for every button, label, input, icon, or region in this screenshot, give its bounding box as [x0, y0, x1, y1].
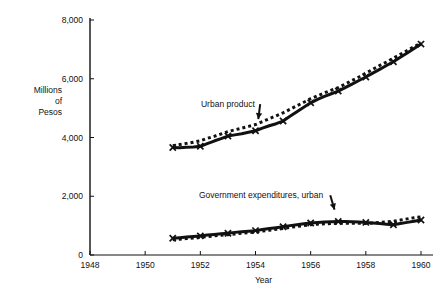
x-axis-tick-label: 1954	[246, 260, 265, 270]
series-solid-line	[173, 44, 421, 148]
y-axis-tick-label: 0	[78, 250, 83, 260]
series-3	[173, 217, 421, 240]
annotation-label: Urban product	[201, 99, 256, 109]
annotation-arrow	[330, 195, 336, 209]
x-axis-title: Year	[255, 275, 272, 285]
series-1	[173, 43, 421, 146]
y-axis-title-line: Millions	[34, 85, 62, 95]
y-axis-title-line: Pesos	[38, 107, 62, 117]
series-dotted-line	[173, 217, 421, 240]
series-0	[170, 41, 424, 151]
series-dotted-line	[173, 43, 421, 146]
x-axis-tick-label: 1948	[81, 260, 100, 270]
chart-container: 02,0004,0006,0008,0001948195019521954195…	[0, 0, 443, 294]
x-axis-tick-label: 1956	[301, 260, 320, 270]
x-axis-tick-label: 1952	[191, 260, 210, 270]
series-2	[170, 217, 424, 241]
x-axis-tick-label: 1958	[356, 260, 375, 270]
y-axis-tick-label: 4,000	[62, 133, 84, 143]
y-axis-tick-label: 6,000	[62, 74, 84, 84]
annotation-arrow	[256, 104, 262, 119]
x-axis-tick-label: 1950	[136, 260, 155, 270]
line-chart: 02,0004,0006,0008,0001948195019521954195…	[0, 0, 443, 294]
x-axis-tick-label: 1960	[412, 260, 431, 270]
y-axis-tick-label: 2,000	[62, 191, 84, 201]
annotation-label: Government expenditures, urban	[199, 190, 324, 200]
y-axis-title-line: of	[55, 96, 63, 106]
y-axis-tick-label: 8,000	[62, 15, 84, 25]
